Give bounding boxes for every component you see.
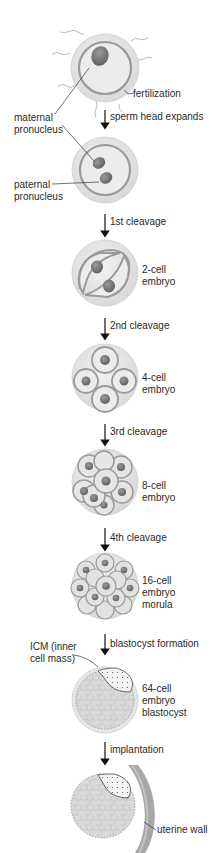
stage-label-line: 8-cell [142, 480, 175, 492]
maternal-pronucleus-line1: maternal [14, 112, 63, 124]
stage-label-2-cell: 2-cell embryo [142, 264, 175, 288]
maternal-pronucleus-label: maternal pronucleus [14, 112, 63, 136]
step-label-implantation: implantation [110, 744, 164, 756]
four-cell-stage [72, 344, 138, 412]
stage-label-line: 16-cell [142, 575, 175, 587]
step-label-3rd-cleavage: 3rd cleavage [110, 426, 167, 438]
step-label-sperm-head-expands: sperm head expands [110, 111, 203, 123]
paternal-pronucleus-line1: paternal [14, 179, 63, 191]
eight-cell-stage [72, 449, 138, 515]
fertilization-label: fertilization [133, 88, 181, 100]
stage-label-line: 2-cell [142, 264, 175, 276]
paternal-pronucleus-line2: pronucleus [14, 191, 63, 203]
stage-label-line: embryo [142, 384, 175, 396]
zygote-stage [52, 30, 152, 118]
stage-label-line: 64-cell [142, 683, 186, 695]
stage-label-line: embryo [142, 276, 175, 288]
maternal-pronucleus-line2: pronucleus [14, 124, 63, 136]
stage-label-line: embryo [142, 492, 175, 504]
step-label-2nd-cleavage: 2nd cleavage [110, 320, 170, 332]
blastocyst-stage [72, 655, 138, 733]
icm-line1: ICM (inner [30, 641, 77, 653]
step-label-4th-cleavage: 4th cleavage [110, 532, 167, 544]
stage-label-64-cell: 64-cell embryo blastocyst [142, 683, 186, 719]
icm-line2: cell mass) [30, 653, 77, 665]
pronuclear-stage [52, 125, 138, 203]
uterine-wall-label: uterine wall [157, 824, 208, 836]
implantation-stage [71, 765, 156, 853]
step-label-blastocyst-formation: blastocyst formation [110, 638, 199, 650]
two-cell-stage [72, 240, 138, 306]
stage-label-line: 4-cell [142, 372, 175, 384]
stage-label-line: blastocyst [142, 707, 186, 719]
stage-label-8-cell: 8-cell embryo [142, 480, 175, 504]
stage-label-4-cell: 4-cell embryo [142, 372, 175, 396]
icm-leader [74, 655, 98, 667]
stage-label-line: embryo [142, 587, 175, 599]
stage-label-16-cell: 16-cell embryo morula [142, 575, 175, 611]
stage-label-line: morula [142, 599, 175, 611]
icm-label: ICM (inner cell mass) [30, 641, 77, 665]
stage-label-line: embryo [142, 695, 186, 707]
morula-stage [71, 553, 139, 619]
step-label-1st-cleavage: 1st cleavage [110, 216, 166, 228]
paternal-pronucleus-label: paternal pronucleus [14, 179, 63, 203]
